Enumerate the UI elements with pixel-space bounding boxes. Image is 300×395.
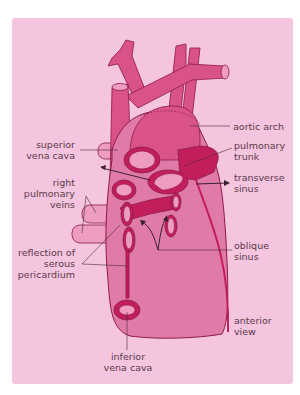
label-anterior-view: anterior view: [234, 315, 272, 337]
label-reflection-serous-pericardium: reflection of serous pericardium: [18, 247, 75, 280]
label-inferior-vena-cava: inferior vena cava: [102, 351, 154, 373]
label-pulmonary-trunk: pulmonary trunk: [234, 140, 285, 162]
label-oblique-sinus: oblique sinus: [234, 240, 269, 262]
label-transverse-sinus: transverse sinus: [234, 172, 285, 194]
label-aortic-arch: aortic arch: [233, 121, 284, 132]
label-superior-vena-cava: superior vena cava: [26, 139, 75, 161]
label-right-pulmonary-veins: right pulmonary veins: [24, 177, 75, 210]
